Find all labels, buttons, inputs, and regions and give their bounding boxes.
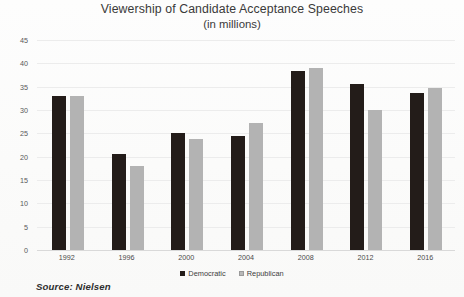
page-title: Viewership of Candidate Acceptance Speec… xyxy=(0,2,464,17)
legend-label: Republican xyxy=(247,269,284,278)
y-axis-tick-label: 30 xyxy=(0,106,33,115)
y-axis-tick-label: 10 xyxy=(0,199,33,208)
bar-democratic-1992 xyxy=(52,96,66,250)
bar-republican-2000 xyxy=(189,139,203,250)
bar-group xyxy=(112,40,144,250)
bar-group xyxy=(231,40,263,250)
chart-legend: DemocraticRepublican xyxy=(0,269,464,278)
bar-republican-2012 xyxy=(368,110,382,250)
legend-swatch-icon xyxy=(180,271,185,276)
chart-subtitle: (in millions) xyxy=(0,17,464,32)
bar-group xyxy=(291,40,323,250)
bar-group xyxy=(350,40,382,250)
bar-group xyxy=(52,40,84,250)
bar-democratic-2004 xyxy=(231,136,245,250)
bar-republican-1992 xyxy=(70,96,84,250)
bar-republican-1996 xyxy=(130,166,144,250)
x-axis-tick-label: 1996 xyxy=(107,253,147,262)
plot-area xyxy=(37,40,455,250)
bar-group xyxy=(410,40,442,250)
bar-republican-2016 xyxy=(428,88,442,250)
bar-republican-2008 xyxy=(309,68,323,250)
x-axis-tick-label: 1992 xyxy=(47,253,87,262)
bar-democratic-2000 xyxy=(171,133,185,250)
x-axis-tick-label: 2016 xyxy=(405,253,445,262)
gridline xyxy=(37,250,455,251)
y-axis-tick-label: 25 xyxy=(0,129,33,138)
x-axis-tick-label: 2004 xyxy=(226,253,266,262)
bar-democratic-2008 xyxy=(291,71,305,250)
y-axis-tick-label: 20 xyxy=(0,152,33,161)
x-axis-tick-label: 2012 xyxy=(345,253,385,262)
bar-democratic-2016 xyxy=(410,93,424,250)
y-axis-tick-label: 0 xyxy=(0,246,33,255)
bar-democratic-2012 xyxy=(350,84,364,250)
bar-republican-2004 xyxy=(249,123,263,250)
legend-item-democratic[interactable]: Democratic xyxy=(180,269,225,278)
legend-item-republican[interactable]: Republican xyxy=(239,269,284,278)
y-axis-tick-label: 40 xyxy=(0,59,33,68)
y-axis-tick-label: 5 xyxy=(0,222,33,231)
legend-label: Democratic xyxy=(188,269,225,278)
chart-page: Viewership of Candidate Acceptance Speec… xyxy=(0,0,464,297)
source-note: Source: Nielsen xyxy=(36,281,111,292)
x-axis: 1992199620002004200820122016 xyxy=(37,253,455,267)
x-axis-tick-label: 2008 xyxy=(286,253,326,262)
y-axis-tick-label: 15 xyxy=(0,176,33,185)
bars-layer xyxy=(37,40,455,250)
y-axis-tick-label: 45 xyxy=(0,36,33,45)
x-axis-tick-label: 2000 xyxy=(166,253,206,262)
y-axis: 051015202530354045 xyxy=(0,40,33,250)
y-axis-tick-label: 35 xyxy=(0,82,33,91)
title-block: Viewership of Candidate Acceptance Speec… xyxy=(0,2,464,32)
bar-group xyxy=(171,40,203,250)
legend-swatch-icon xyxy=(239,271,244,276)
bar-democratic-1996 xyxy=(112,154,126,250)
